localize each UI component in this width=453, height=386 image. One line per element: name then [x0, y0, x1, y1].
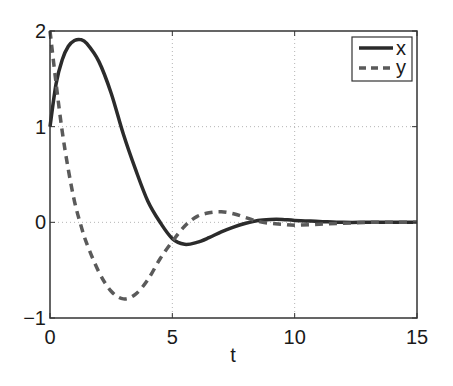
line-chart: 051015−1012 t x y [0, 0, 453, 386]
y-tick-label: 2 [35, 20, 46, 42]
legend-label-y: y [396, 56, 406, 78]
x-axis-label: t [230, 344, 236, 366]
x-tick-label: 10 [284, 326, 306, 348]
y-tick-label: 0 [35, 211, 46, 233]
x-tick-label: 0 [44, 326, 55, 348]
y-tick-label: −1 [23, 307, 46, 329]
legend: x y [352, 37, 412, 81]
y-tick-label: 1 [35, 116, 46, 138]
x-tick-label: 15 [406, 326, 428, 348]
x-tick-label: 5 [167, 326, 178, 348]
